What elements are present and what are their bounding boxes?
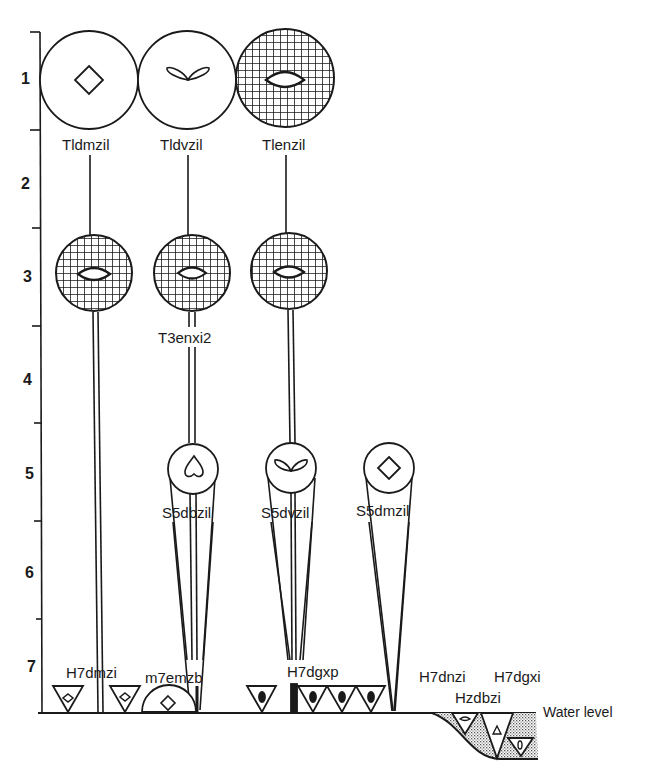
node-S5dmzil <box>364 443 414 493</box>
node-row3-c <box>251 233 327 309</box>
label-H7dgxi: H7dgxi <box>494 669 541 684</box>
ground-triangle-3 <box>247 686 276 712</box>
node-S5dvzil <box>266 443 316 493</box>
vertical-axis <box>40 32 42 713</box>
label-H7dmzi: H7dmzi <box>66 665 117 680</box>
label-Tlenzil: Tlenzil <box>262 137 305 152</box>
ground-triangle-4 <box>298 686 327 712</box>
node-row3-a <box>56 235 132 311</box>
ground-triangle-6 <box>356 686 385 712</box>
node-T3enxi2 <box>154 235 230 311</box>
label-H7dnzi: H7dnzi <box>419 669 466 684</box>
node-S5dbzil <box>168 444 218 494</box>
node-Tldvzil <box>138 31 236 129</box>
label-m7emzb: m7emzb <box>145 670 203 685</box>
label-Hzdbzi: Hzdbzi <box>455 690 501 705</box>
ground-triangle-5 <box>327 686 356 712</box>
label-T3enxi2: T3enxi2 <box>158 330 211 345</box>
ground-post <box>291 684 297 712</box>
label-S5dbzil: S5dbzil <box>162 505 211 520</box>
ground-triangle-1 <box>53 686 83 712</box>
label-S5dmzil: S5dmzil <box>356 503 409 518</box>
axis-label-3: 3 <box>23 269 32 285</box>
axis-label-4: 4 <box>23 372 32 388</box>
label-S5dvzil: S5dvzil <box>261 505 309 520</box>
axis-label-7: 7 <box>27 659 36 675</box>
water-level-label: Water level <box>543 705 613 719</box>
label-H7dgxp: H7dgxp <box>287 664 339 679</box>
axis-label-6: 6 <box>25 565 34 581</box>
node-Tlenzil <box>236 29 334 127</box>
axis-label-1: 1 <box>21 71 30 87</box>
label-Tldvzil: Tldvzil <box>160 137 203 152</box>
axis-label-2: 2 <box>21 176 30 192</box>
axis-label-5: 5 <box>25 466 34 482</box>
node-Tldmzil <box>40 31 138 129</box>
label-Tldmzil: Tldmzil <box>62 137 110 152</box>
ground-triangle-2 <box>110 686 140 712</box>
water-basin <box>432 713 538 759</box>
